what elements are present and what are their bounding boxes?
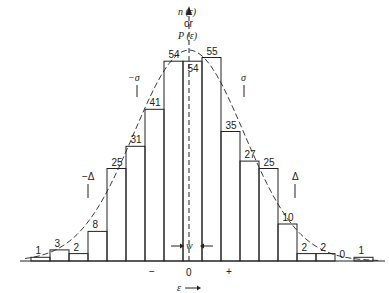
histogram-bar xyxy=(183,61,202,261)
epsilon-arrow-icon xyxy=(197,286,201,291)
bar-count-label: 25 xyxy=(264,157,276,168)
histogram-bar xyxy=(145,109,164,261)
histogram-bar xyxy=(88,231,107,261)
ylabel-line2: or xyxy=(184,18,194,29)
bar-count-label: 2 xyxy=(302,242,308,253)
bar-count-label: 1 xyxy=(36,245,42,256)
histogram-bar xyxy=(107,169,126,262)
histogram-bar xyxy=(202,58,221,262)
bar-count-label: 35 xyxy=(226,120,238,131)
ylabel-line1: n (ε) xyxy=(178,6,197,18)
minus-sigma-label: −σ xyxy=(128,72,141,83)
bar-count-label: 2 xyxy=(321,242,327,253)
minus-delta-label: −Δ xyxy=(82,171,95,182)
bar-count-label: 8 xyxy=(93,219,99,230)
sigma-label: σ xyxy=(241,72,247,83)
width-label: w xyxy=(186,240,193,251)
plus-label: + xyxy=(226,266,232,277)
histogram-bar xyxy=(221,132,240,262)
bar-count-label: 1 xyxy=(359,245,365,256)
bar-count-labels: 1328253141545455352725102201 xyxy=(36,46,365,261)
bar-count-label: 54 xyxy=(169,49,181,60)
histogram-bar xyxy=(126,146,145,261)
histogram-bar xyxy=(31,257,50,261)
histogram-bar xyxy=(259,169,278,262)
histogram-bars xyxy=(31,58,373,262)
histogram-bar xyxy=(278,224,297,261)
histogram-bar xyxy=(240,161,259,261)
bar-count-label: 2 xyxy=(74,242,80,253)
histogram-bar xyxy=(297,254,316,261)
histogram-figure: 1328253141545455352725102201 n (ε) or P … xyxy=(0,0,389,293)
epsilon-label: ε xyxy=(177,282,181,293)
bar-count-label: 27 xyxy=(245,149,257,160)
bar-count-label: 31 xyxy=(131,134,143,145)
bar-count-label: 25 xyxy=(112,157,124,168)
minus-label: − xyxy=(149,266,155,277)
bar-count-label: 0 xyxy=(340,249,346,260)
histogram-bar xyxy=(69,254,88,261)
histogram-bar xyxy=(164,61,183,261)
histogram-bar xyxy=(316,254,335,261)
ylabel-line3: P (ε) xyxy=(177,30,198,42)
bar-count-label: 41 xyxy=(150,97,162,108)
zero-label: 0 xyxy=(186,267,192,278)
bar-count-label: 55 xyxy=(207,46,219,57)
delta-label: Δ xyxy=(292,171,299,182)
